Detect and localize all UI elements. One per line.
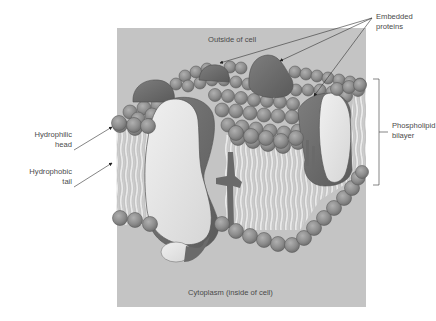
label-phospholipid-bilayer: Phospholipid bilayer xyxy=(392,121,436,141)
label-hydrophilic-head: Hydrophilic head xyxy=(18,130,72,150)
label-cytoplasm: Cytoplasm (inside of cell) xyxy=(188,288,273,298)
label-tail-line2: tail xyxy=(12,177,72,187)
label-outside-of-cell: Outside of cell xyxy=(208,35,256,45)
label-phospholipid-line2: bilayer xyxy=(392,131,436,141)
label-tail-line1: Hydrophobic xyxy=(12,167,72,177)
label-embedded-proteins: Embedded proteins xyxy=(376,12,413,32)
label-hydrophobic-tail: Hydrophobic tail xyxy=(12,167,72,187)
label-head-line2: head xyxy=(18,140,72,150)
label-phospholipid-line1: Phospholipid xyxy=(392,121,436,131)
label-embedded-line1: Embedded xyxy=(376,12,413,22)
label-embedded-line2: proteins xyxy=(376,22,413,32)
transmembrane-protein-right xyxy=(319,93,351,182)
label-head-line1: Hydrophilic xyxy=(18,130,72,140)
